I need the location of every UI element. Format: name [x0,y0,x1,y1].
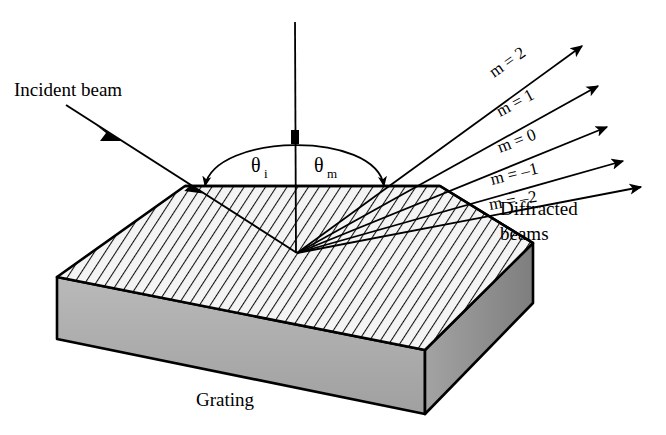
theta-i-subscript: i [264,166,268,181]
theta-m-symbol: θ [314,154,324,176]
surface-normal-tick-icon [291,130,299,144]
diffraction-grating-figure: Incident beam Diffracted beams Grating θ… [0,0,666,435]
order-label-m1: m = 1 [493,85,537,120]
order-label-m0: m = 0 [495,125,539,157]
diffracted-beams-label-line2: beams [500,223,549,244]
theta-i-symbol: θ [251,154,261,176]
grating-label: Grating [196,389,255,410]
theta-i-label: θ i [251,154,268,181]
theta-m-subscript: m [327,166,337,181]
order-label-m-1: m = –1 [488,159,539,189]
incident-beam-label: Incident beam [14,79,122,100]
incident-beam-arrowhead-icon [96,125,122,141]
angle-arc-icon [205,145,384,186]
diagram-canvas: Incident beam Diffracted beams Grating θ… [0,0,666,435]
theta-m-label: θ m [314,154,337,181]
order-label-m2: m = 2 [485,43,529,81]
angle-arc-group [205,145,384,186]
